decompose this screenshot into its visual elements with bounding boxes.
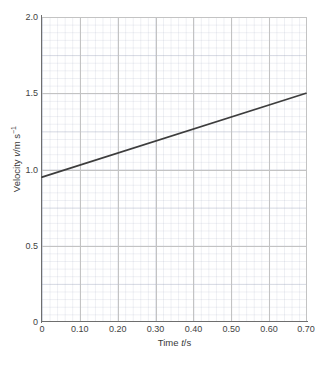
x-tick-label-0.20: 0.20 xyxy=(109,324,127,334)
series-velocity-path xyxy=(42,93,306,177)
x-axis-title-prefix: Time xyxy=(158,337,181,348)
y-axis-title: Velocity v/m s−1 xyxy=(10,59,22,259)
y-axis-title-exponent: −1 xyxy=(10,126,17,134)
velocity-time-chart: 2.0 1.5 1.0 0.5 0 0 0.10 0.20 0.30 0.40 … xyxy=(0,0,332,367)
x-axis-title-suffix: /s xyxy=(184,337,191,348)
x-tick-label-0.50: 0.50 xyxy=(223,324,241,334)
x-tick-label-0: 0 xyxy=(39,324,44,334)
y-axis-title-symbol: v xyxy=(11,152,22,157)
x-tick-label-0.40: 0.40 xyxy=(185,324,203,334)
x-tick-label-0.30: 0.30 xyxy=(147,324,165,334)
y-tick-label-1.5: 1.5 xyxy=(25,88,38,98)
y-tick-label-0: 0 xyxy=(33,317,38,327)
y-tick-label-2.0: 2.0 xyxy=(25,12,38,22)
y-tick-label-1.0: 1.0 xyxy=(25,165,38,175)
x-tick-label-0.10: 0.10 xyxy=(71,324,89,334)
velocity-series-line xyxy=(42,17,307,322)
y-tick-label-0.5: 0.5 xyxy=(25,241,38,251)
x-tick-label-0.70: 0.70 xyxy=(297,324,315,334)
x-tick-label-0.60: 0.60 xyxy=(260,324,278,334)
y-axis-title-unit: /m s xyxy=(11,134,22,152)
y-axis-title-prefix: Velocity xyxy=(11,157,22,192)
x-axis-title: Time t/s xyxy=(42,337,307,348)
